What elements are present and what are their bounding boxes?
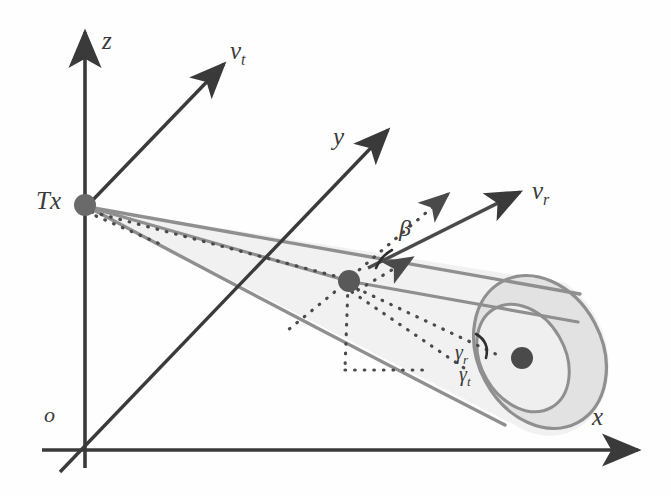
scattering-geometry-svg	[0, 0, 671, 496]
gamma-r-base: γ	[455, 341, 463, 363]
vt-sub: t	[241, 51, 245, 68]
scattering-cone	[88, 207, 632, 452]
gamma-t-base: γ	[459, 363, 467, 385]
tx-label: Tx	[36, 188, 61, 213]
gamma-t-sub: t	[467, 374, 471, 389]
beta-label: β	[399, 216, 411, 240]
scatterer-point	[338, 270, 360, 292]
tx-point	[74, 194, 96, 216]
rx-point	[511, 347, 533, 369]
diagram-canvas: z x y o Tx vt vr β γr γt	[0, 0, 671, 496]
origin-label: o	[44, 404, 55, 426]
vt-label: vt	[230, 38, 246, 68]
vr-base: v	[532, 177, 543, 204]
vt-base: v	[230, 37, 241, 64]
gamma-t-label: γt	[459, 364, 471, 388]
x-axis-label: x	[592, 404, 603, 429]
z-axis-label: z	[102, 28, 112, 53]
vr-label: vr	[532, 178, 549, 208]
y-axis-label: y	[333, 124, 344, 149]
vt-vector	[88, 64, 224, 205]
vr-vector	[368, 192, 520, 268]
vr-sub: r	[543, 191, 549, 208]
